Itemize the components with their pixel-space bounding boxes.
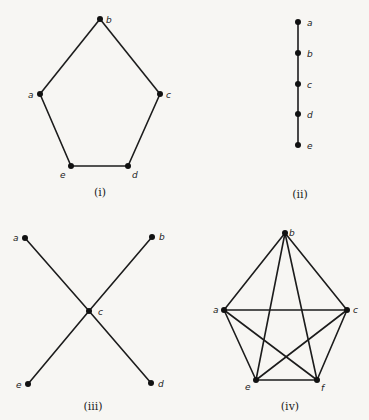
edge-e-a [40,94,71,166]
vertex-a [295,19,301,25]
vertex-e [295,142,301,148]
vertex-b [149,234,155,240]
vertex-c [157,91,163,97]
vertex-a [22,235,28,241]
edge-b-c [89,237,152,311]
edge-c-d [89,311,151,383]
edge-c-f [317,310,347,380]
graph-ii-path: abcde(ii) [292,18,313,201]
vertex-c [295,81,301,87]
vertex-label: c [98,307,103,317]
vertex-a [221,307,227,313]
edge-b-f [285,233,317,380]
vertex-label: e [60,170,66,180]
vertex-f [314,377,320,383]
vertex-b [295,50,301,56]
vertex-label: a [28,90,34,100]
vertex-label: e [245,382,251,392]
graph-caption: (ii) [292,188,308,201]
vertex-label: b [106,15,112,25]
edge-c-e [28,311,89,384]
vertex-e [253,377,259,383]
edge-b-c [285,233,347,310]
vertex-label: e [16,380,22,390]
vertex-label: b [289,228,295,238]
edge-a-e [224,310,256,380]
vertex-label: a [307,18,313,28]
vertex-b [282,230,288,236]
vertex-d [125,163,131,169]
edge-c-d [128,94,160,166]
graph-i-cycle: abcde(i) [28,15,171,199]
vertex-label: f [321,383,326,393]
edge-b-e [256,233,285,380]
edge-a-c [25,238,89,311]
vertex-b [97,16,103,22]
graph-figure: abcde(i) abcde(ii) abcde(iii) abcef(iv) [0,0,369,420]
vertex-label: c [353,305,358,315]
vertex-label: d [307,110,313,120]
vertex-e [25,381,31,387]
vertex-a [37,91,43,97]
vertex-label: a [213,305,219,315]
vertex-label: c [166,90,171,100]
vertex-label: d [132,170,138,180]
graph-caption: (i) [94,186,106,199]
vertex-label: a [13,233,19,243]
edge-a-b [40,19,100,94]
vertex-label: c [307,80,312,90]
edge-b-c [100,19,160,94]
vertex-d [148,380,154,386]
graph-iii-star: abcde(iii) [13,232,165,413]
vertex-c [86,308,92,314]
graph-iv-complete: abcef(iv) [213,228,358,413]
graph-caption: (iv) [281,400,299,413]
vertex-label: b [307,49,313,59]
vertex-e [68,163,74,169]
graph-caption: (iii) [83,400,102,413]
vertex-d [295,111,301,117]
vertex-label: e [307,141,313,151]
vertex-label: b [159,232,165,242]
vertex-c [344,307,350,313]
edge-a-b [224,233,285,310]
vertex-label: d [158,379,164,389]
